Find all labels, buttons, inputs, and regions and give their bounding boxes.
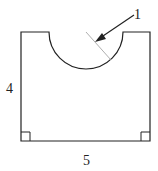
radius-line xyxy=(86,32,111,60)
label-radius: 1 xyxy=(134,7,141,22)
right-angle-marker-right xyxy=(141,132,150,141)
notched-rectangle xyxy=(21,32,150,141)
right-angle-marker-left xyxy=(21,132,30,141)
figure: 1 4 5 xyxy=(0,0,158,171)
pointer-arrow xyxy=(100,15,134,38)
label-height: 4 xyxy=(6,81,13,96)
label-width: 5 xyxy=(83,153,90,168)
